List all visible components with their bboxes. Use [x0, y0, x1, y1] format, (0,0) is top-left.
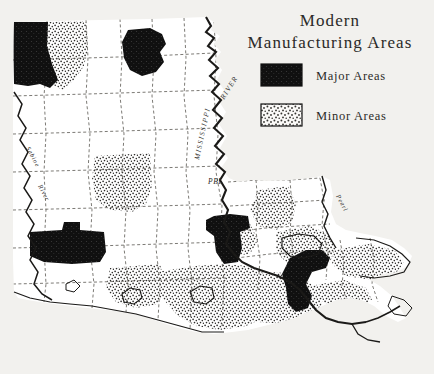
legend-swatch-minor [261, 104, 302, 126]
minor-area-alexandria [92, 153, 152, 212]
legend-label-minor: Minor Areas [316, 109, 387, 123]
label-pbl: PBL [207, 177, 223, 186]
legend-swatch-major [261, 64, 302, 86]
title-line-2: Manufacturing Areas [248, 33, 413, 52]
legend-label-major: Major Areas [316, 69, 386, 83]
title-line-1: Modern [300, 11, 360, 30]
manufacturing-areas-map-figure: Modern Manufacturing Areas Major Areas M… [0, 0, 434, 374]
